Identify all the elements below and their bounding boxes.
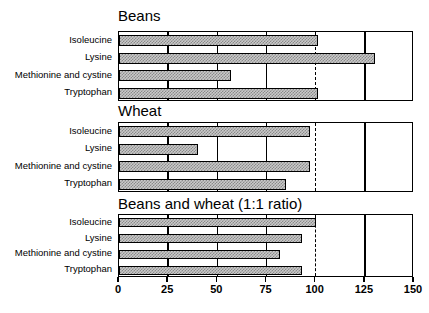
x-tick-label-75: 75 (246, 283, 286, 295)
bar-lysine (119, 144, 198, 155)
bar-row (119, 161, 412, 172)
y-tick-label: Lysine (0, 52, 112, 62)
bar-row (119, 234, 412, 243)
bar-methionine-and-cystine (119, 70, 231, 81)
bar-isoleucine (119, 126, 310, 137)
plot-area-1 (118, 31, 413, 101)
plot-area-3 (118, 214, 413, 277)
x-tick-75 (265, 277, 266, 282)
x-tick-label-100: 100 (295, 283, 335, 295)
bar-lysine (119, 234, 302, 243)
y-tick-label: Lysine (0, 143, 112, 153)
x-tick-50 (216, 277, 217, 282)
x-tick-label-50: 50 (196, 283, 236, 295)
y-tick-label: Methionine and cystine (0, 161, 112, 171)
x-tick-125 (363, 277, 364, 282)
x-tick-label-150: 150 (393, 283, 429, 295)
y-tick-label: Lysine (0, 233, 112, 243)
x-tick-label-0: 0 (98, 283, 138, 295)
panel-title-1: Beans (118, 8, 161, 23)
bar-methionine-and-cystine (119, 250, 280, 259)
y-tick-label: Isoleucine (0, 35, 112, 45)
bar-row (119, 218, 412, 227)
panel-title-3: Beans and wheat (1:1 ratio) (118, 196, 302, 211)
bar-row (119, 179, 412, 190)
bar-isoleucine (119, 35, 318, 46)
y-tick-label: Methionine and cystine (0, 248, 112, 258)
x-axis: 0255075100125150 (118, 277, 413, 299)
bar-row (119, 250, 412, 259)
bar-row (119, 144, 412, 155)
bar-row (119, 53, 412, 64)
x-tick-label-25: 25 (147, 283, 187, 295)
bar-isoleucine (119, 218, 316, 227)
bar-row (119, 266, 412, 275)
y-tick-label: Methionine and cystine (0, 70, 112, 80)
bar-methionine-and-cystine (119, 161, 310, 172)
x-tick-150 (412, 277, 413, 282)
plot-area-2 (118, 122, 413, 192)
bar-lysine (119, 53, 375, 64)
x-tick-label-125: 125 (344, 283, 384, 295)
bar-row (119, 126, 412, 137)
y-tick-label: Isoleucine (0, 217, 112, 227)
x-tick-0 (117, 277, 118, 282)
x-tick-100 (314, 277, 315, 282)
x-tick-25 (166, 277, 167, 282)
y-tick-label: Tryptophan (0, 178, 112, 188)
bar-row (119, 88, 412, 99)
chart-figure: BeansIsoleucineLysineMethionine and cyst… (0, 0, 429, 313)
bar-tryptophan (119, 266, 302, 275)
bar-row (119, 70, 412, 81)
y-tick-label: Tryptophan (0, 87, 112, 97)
y-tick-label: Isoleucine (0, 126, 112, 136)
bar-tryptophan (119, 179, 286, 190)
panel-title-2: Wheat (118, 103, 161, 118)
bar-tryptophan (119, 88, 318, 99)
bar-row (119, 35, 412, 46)
y-tick-label: Tryptophan (0, 264, 112, 274)
